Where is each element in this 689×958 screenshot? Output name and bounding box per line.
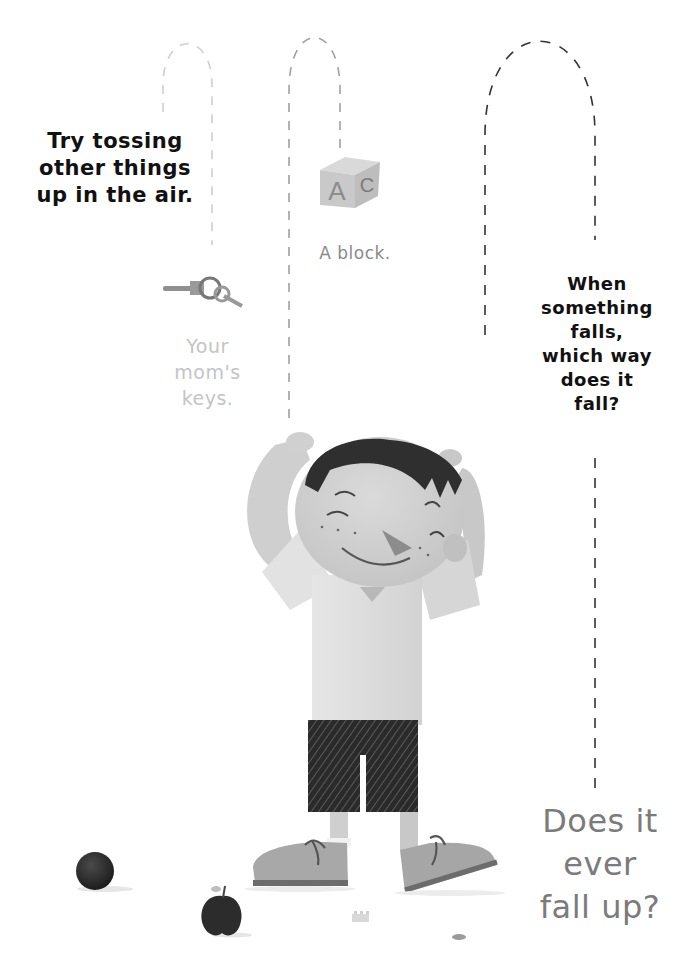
svg-text:A: A bbox=[328, 176, 346, 206]
ball-icon bbox=[76, 852, 133, 892]
book-page: A C bbox=[0, 0, 689, 958]
apple-icon bbox=[201, 886, 252, 938]
block-label: A block. bbox=[300, 243, 410, 263]
toy-brick-icon bbox=[352, 911, 369, 922]
coin-icon bbox=[452, 934, 466, 940]
boy-illustration bbox=[245, 432, 505, 896]
final-question: Does it ever fall up? bbox=[520, 800, 680, 929]
intro-text: Try tossing other things up in the air. bbox=[30, 128, 200, 209]
falling-question: When something falls, which way does it … bbox=[532, 272, 662, 416]
keys-icon bbox=[163, 278, 242, 306]
toy-block: A C bbox=[320, 157, 380, 208]
block-trajectory bbox=[289, 38, 340, 419]
keys-label: Your mom's keys. bbox=[160, 333, 255, 411]
svg-text:C: C bbox=[360, 174, 374, 196]
